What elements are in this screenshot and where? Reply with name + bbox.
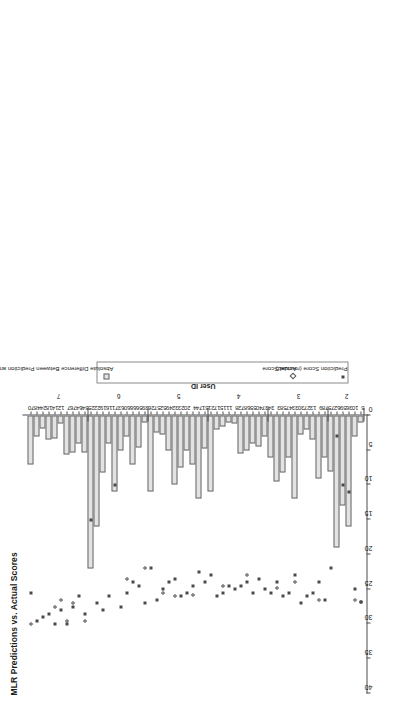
category-tick [348, 411, 349, 414]
prediction-score-point [59, 608, 62, 611]
group-separator [207, 407, 208, 421]
category-tick [42, 411, 43, 414]
value-tick-label: 15 [364, 509, 372, 516]
prediction-score-point [293, 573, 296, 576]
group-separator [87, 407, 88, 421]
value-tick-label: 40 [364, 683, 372, 690]
prediction-score-point [281, 594, 284, 597]
category-tick-label: 13 [309, 404, 316, 410]
bar [303, 415, 308, 429]
category-tick [300, 411, 301, 414]
category-tick [204, 411, 205, 414]
prediction-score-point [233, 587, 236, 590]
category-tick [354, 411, 355, 414]
prediction-score-point [29, 591, 32, 594]
bar [213, 415, 218, 429]
prediction-score-point [245, 580, 248, 583]
category-tick-label: 20 [183, 404, 190, 410]
chart-figure: MLR Predictions vs. Actual Scores 051015… [0, 0, 396, 721]
prediction-score-point [119, 605, 122, 608]
bar [225, 415, 230, 422]
prediction-score-point [203, 580, 206, 583]
category-tick [198, 411, 199, 414]
category-tick [90, 411, 91, 414]
value-tick [366, 588, 370, 589]
category-tick [150, 411, 151, 414]
bar [69, 415, 74, 452]
bar [147, 415, 152, 491]
prediction-score-point [77, 594, 80, 597]
category-tick [126, 411, 127, 414]
category-tick [168, 411, 169, 414]
bar [33, 415, 38, 436]
bar [135, 415, 140, 447]
chart-legend: Absolute Difference Between Prediction a… [96, 361, 348, 383]
bar [255, 415, 260, 446]
legend-label: Absolute Difference Between Prediction a… [0, 365, 113, 371]
category-tick [192, 411, 193, 414]
prediction-score-point [287, 591, 290, 594]
prediction-score-point [35, 619, 38, 622]
bar [117, 415, 122, 450]
category-tick [156, 411, 157, 414]
prediction-score-point [215, 594, 218, 597]
prediction-score-point [179, 594, 182, 597]
bar [189, 415, 194, 464]
bar [123, 415, 128, 436]
prediction-score-point [161, 587, 164, 590]
value-tick-label: 20 [364, 544, 372, 551]
prediction-score-point [143, 601, 146, 604]
category-tick [252, 411, 253, 414]
bar [291, 415, 296, 498]
category-tick [312, 411, 313, 414]
bar [261, 415, 266, 436]
prediction-score-point [251, 591, 254, 594]
prediction-score-point [239, 584, 242, 587]
category-tick [144, 411, 145, 414]
legend-marker-actual-score [289, 372, 296, 379]
value-tick-label: 25 [364, 579, 372, 586]
bar [93, 415, 98, 526]
prediction-score-point [113, 483, 116, 486]
category-tick [258, 411, 259, 414]
group-label-fold: 6 [116, 392, 120, 399]
category-tick [102, 411, 103, 414]
category-tick [336, 411, 337, 414]
bar [81, 415, 86, 452]
legend-marker-prediction-score [341, 375, 344, 378]
prediction-score-point [149, 566, 152, 569]
prediction-score-point [257, 577, 260, 580]
category-tick [324, 411, 325, 414]
prediction-score-point [317, 580, 320, 583]
bar [75, 415, 80, 443]
prediction-score-point [269, 591, 272, 594]
category-tick [78, 411, 79, 414]
bar [339, 415, 344, 505]
value-tick [366, 449, 370, 450]
prediction-score-point [197, 570, 200, 573]
category-tick [180, 411, 181, 414]
prediction-score-point [185, 591, 188, 594]
chart-screenshot: MLR Predictions vs. Actual Scores 051015… [0, 0, 396, 721]
bar [171, 415, 176, 485]
bar [201, 415, 206, 448]
value-tick-label: 0 [368, 405, 372, 412]
legend-swatch-abs-difference [103, 373, 109, 379]
bar [51, 415, 56, 438]
value-tick [366, 623, 370, 624]
bar [153, 415, 158, 432]
category-tick [36, 411, 37, 414]
group-label-fold: 2 [344, 392, 348, 399]
bar [243, 415, 248, 450]
value-tick [366, 518, 370, 519]
bar [309, 415, 314, 439]
group-label-fold: 4 [236, 392, 240, 399]
bar [345, 415, 350, 526]
prediction-score-point [263, 587, 266, 590]
category-tick [54, 411, 55, 414]
category-tick [138, 411, 139, 414]
prediction-score-point [299, 601, 302, 604]
chart-title: MLR Predictions vs. Actual Scores [8, 552, 18, 695]
prediction-score-point [311, 591, 314, 594]
category-tick [174, 411, 175, 414]
